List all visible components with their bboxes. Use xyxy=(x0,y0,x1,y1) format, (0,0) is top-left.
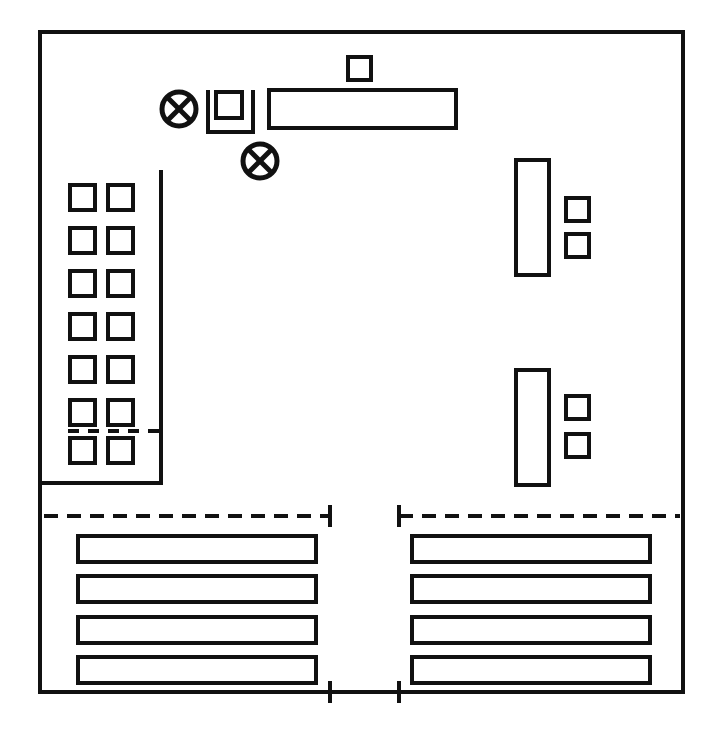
drawing-canvas xyxy=(0,0,718,734)
schematic-drawing xyxy=(0,0,718,734)
